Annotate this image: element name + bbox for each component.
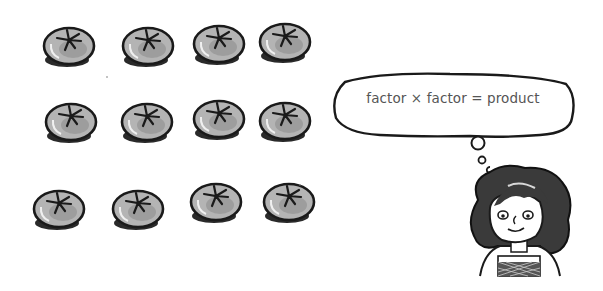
thought-bubble (334, 74, 573, 173)
tomato-array (34, 24, 314, 230)
tomato-r1c3 (194, 26, 244, 65)
tomato-r3c2 (113, 191, 163, 230)
tomato-r1c2 (123, 28, 173, 67)
speck (106, 76, 108, 78)
tomato-r3c3 (191, 184, 241, 223)
thought-dot-large (472, 137, 485, 150)
tomato-r1c4 (260, 24, 310, 63)
thought-bubble-text: factor × factor = product (340, 90, 566, 106)
tomato-r2c3 (194, 101, 244, 140)
girl-character (471, 166, 571, 276)
tomato-r3c4 (264, 184, 314, 223)
thought-dot-medium (479, 157, 486, 164)
tomato-r2c1 (46, 104, 96, 143)
tomato-r1c1 (44, 28, 94, 67)
speck (299, 184, 301, 186)
tomato-r2c2 (122, 104, 172, 143)
tomato-r3c1 (34, 191, 84, 230)
illustration-canvas (0, 0, 603, 291)
tomato-r2c4 (260, 103, 310, 142)
